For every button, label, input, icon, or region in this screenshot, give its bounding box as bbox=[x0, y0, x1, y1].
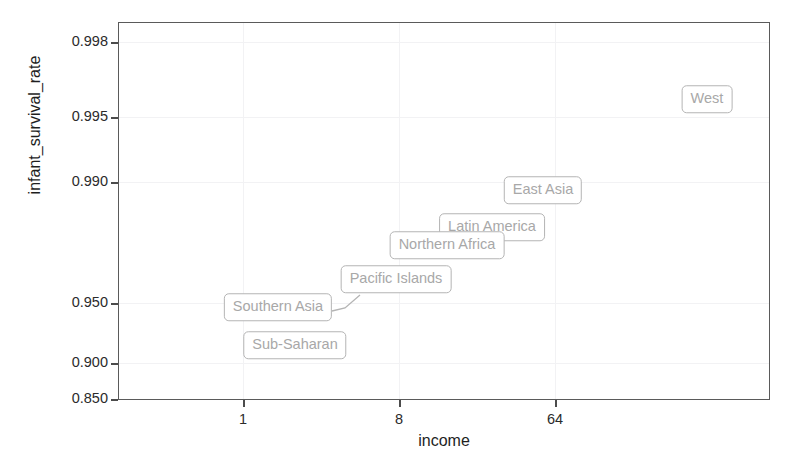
x-axis-tick-label: 8 bbox=[369, 411, 429, 427]
y-axis-tick-label: 0.850 bbox=[46, 390, 108, 406]
chart-page: 0.9980.9950.9900.9500.9000.8501864 WestE… bbox=[0, 0, 790, 465]
y-axis-tick-mark bbox=[111, 42, 118, 44]
y-axis-tick-mark bbox=[111, 117, 118, 119]
y-axis-tick-label: 0.995 bbox=[46, 108, 108, 124]
y-axis-title: infant_survival_rate bbox=[26, 30, 44, 220]
x-axis-tick-label: 1 bbox=[213, 411, 273, 427]
data-point-label: Pacific Islands bbox=[341, 265, 452, 293]
x-axis-tick-mark bbox=[555, 400, 557, 407]
x-axis-tick-mark bbox=[243, 400, 245, 407]
y-axis-tick-label: 0.998 bbox=[46, 33, 108, 49]
x-axis-title: income bbox=[118, 432, 770, 450]
data-point-label: Southern Asia bbox=[224, 293, 332, 321]
data-point-label: Sub-Saharan bbox=[243, 331, 346, 359]
y-axis-tick-label: 0.990 bbox=[46, 173, 108, 189]
plot-frame bbox=[118, 22, 770, 400]
y-axis-tick-mark bbox=[111, 363, 118, 365]
y-axis-tick-label: 0.900 bbox=[46, 354, 108, 370]
data-point-label: East Asia bbox=[504, 176, 582, 204]
y-axis-tick-mark bbox=[111, 303, 118, 305]
y-axis-tick-mark bbox=[111, 399, 118, 401]
data-point-label: West bbox=[682, 85, 733, 113]
y-axis-tick-mark bbox=[111, 182, 118, 184]
y-axis-tick-label: 0.950 bbox=[46, 294, 108, 310]
x-axis-tick-mark bbox=[399, 400, 401, 407]
x-axis-tick-label: 64 bbox=[525, 411, 585, 427]
data-point-label: Northern Africa bbox=[390, 231, 505, 259]
